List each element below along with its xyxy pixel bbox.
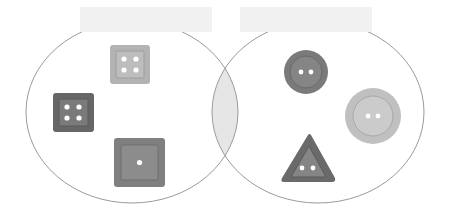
square-button-dark-4-holes <box>53 93 94 132</box>
circle-button-dark-2-holes <box>284 50 328 94</box>
circle-button-light-2-holes <box>345 88 401 144</box>
venn-diagram <box>0 0 449 218</box>
square-button-light-4-holes <box>110 45 150 84</box>
square-button-large-1-hole <box>114 138 165 187</box>
triangle-button-2-holes <box>281 134 335 182</box>
